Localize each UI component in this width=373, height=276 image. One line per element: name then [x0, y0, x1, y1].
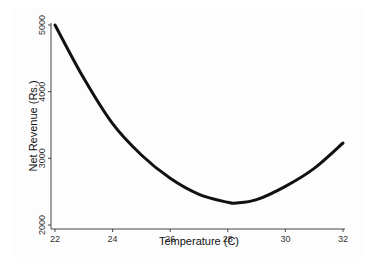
y-tick-label: 5000 — [37, 15, 47, 35]
x-tick-label: 30 — [280, 234, 290, 244]
x-axis-title: Temperature (C) — [159, 235, 239, 247]
x-tick-label: 32 — [338, 234, 348, 244]
y-tick-label: 2000 — [37, 215, 47, 235]
chart-canvas: 2224262830322000300040005000 Temperature… — [0, 0, 373, 276]
y-axis-title: Net Revenue (Rs.) — [27, 80, 39, 171]
tick-labels: 2224262830322000300040005000 — [37, 15, 348, 244]
net-revenue-curve — [55, 25, 343, 203]
x-tick-label: 22 — [50, 234, 60, 244]
x-tick-label: 24 — [108, 234, 118, 244]
axes — [48, 23, 345, 232]
